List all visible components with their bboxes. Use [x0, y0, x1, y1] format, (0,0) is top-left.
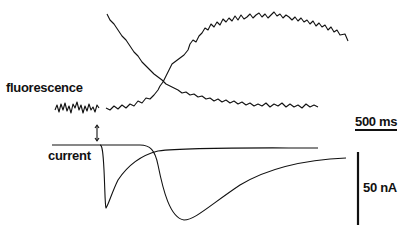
fluorescence-falling-trace — [107, 14, 318, 108]
current-slow-trace — [100, 145, 346, 220]
current-scale-label: 50 nA — [363, 180, 397, 195]
time-scale-label: 500 ms — [355, 114, 397, 129]
current-label: current — [48, 148, 91, 163]
traces-plot — [0, 0, 413, 240]
fluorescence-label: fluorescence — [6, 80, 83, 95]
current-fast-trace — [52, 145, 318, 208]
fluorescence-baseline-trace — [55, 102, 99, 113]
figure: fluorescence current 500 ms 50 nA — [0, 0, 413, 240]
fluorescence-rising-trace — [106, 12, 348, 110]
